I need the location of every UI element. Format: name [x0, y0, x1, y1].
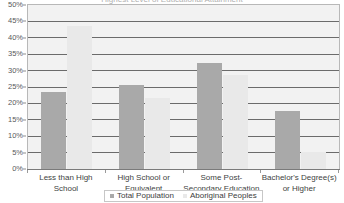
y-axis-tick-mark — [23, 21, 26, 22]
bar — [41, 92, 66, 169]
y-axis: 0%5%10%15%20%25%30%35%40%45%50% — [0, 4, 26, 170]
legend-entry[interactable]: Aboriginal Peoples — [183, 192, 257, 200]
x-axis-category-label: Bachelor's Degree(s) or Higher — [260, 173, 338, 194]
legend-label: Aboriginal Peoples — [190, 192, 257, 200]
bar — [275, 111, 300, 169]
bar-group — [106, 5, 184, 169]
y-axis-tick-label: 15% — [0, 116, 23, 124]
bar — [197, 63, 222, 169]
y-axis-tick-label: 45% — [0, 18, 23, 26]
y-axis-tick-mark — [23, 152, 26, 153]
y-axis-tick-label: 5% — [0, 149, 23, 157]
bar — [223, 75, 248, 169]
bar-group — [28, 5, 106, 169]
x-axis-tick-mark — [183, 170, 184, 173]
x-axis-category-label: Less than High School — [27, 173, 105, 194]
bar-group — [261, 5, 339, 169]
y-axis-tick-mark — [23, 169, 26, 170]
x-axis-tick-mark — [105, 170, 106, 173]
plot-area — [27, 4, 340, 170]
y-axis-tick-label: 40% — [0, 34, 23, 42]
bar — [145, 98, 170, 169]
y-axis-tick-mark — [23, 70, 26, 71]
bar-group — [184, 5, 262, 169]
y-axis-tick-mark — [23, 103, 26, 104]
bar — [67, 26, 92, 169]
y-axis-tick-mark — [23, 136, 26, 137]
y-axis-tick-label: 35% — [0, 50, 23, 58]
y-axis-tick-label: 20% — [0, 100, 23, 108]
y-axis-tick-mark — [23, 37, 26, 38]
x-axis-tick-mark — [338, 170, 339, 173]
y-axis-tick-label: 10% — [0, 132, 23, 140]
y-axis-tick-mark — [23, 54, 26, 55]
y-axis-tick-label: 25% — [0, 83, 23, 91]
y-axis-tick-mark — [23, 87, 26, 88]
plot-inner — [28, 5, 339, 169]
y-axis-tick-label: 50% — [0, 1, 23, 9]
y-axis-tick-mark — [23, 5, 26, 6]
x-axis-line — [27, 169, 340, 170]
legend-swatch-icon — [110, 194, 114, 198]
x-axis-tick-mark — [27, 170, 28, 173]
y-axis-tick-mark — [23, 119, 26, 120]
chart-legend: Total PopulationAboriginal Peoples — [104, 190, 263, 202]
x-axis-tick-mark — [260, 170, 261, 173]
bar — [119, 85, 144, 169]
legend-entry[interactable]: Total Population — [110, 192, 174, 200]
legend-label: Total Population — [117, 192, 174, 200]
legend-swatch-icon — [183, 194, 187, 198]
chart-screenshot: Highest Level of Educational Attainment … — [0, 0, 344, 203]
bar — [301, 152, 326, 169]
y-axis-tick-label: 30% — [0, 67, 23, 75]
y-axis-tick-label: 0% — [0, 165, 23, 173]
